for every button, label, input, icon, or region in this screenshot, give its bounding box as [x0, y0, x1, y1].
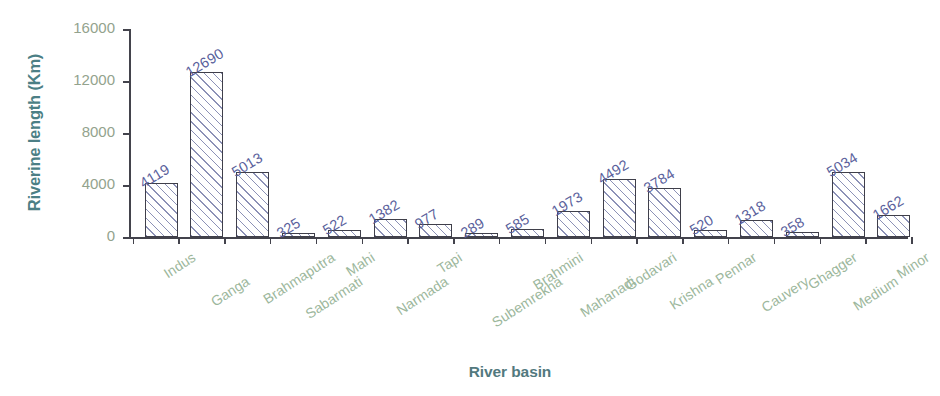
x-axis-category-label: Cauvery	[759, 273, 812, 315]
y-axis-tick-label: 16000	[73, 19, 115, 36]
y-axis-tick: 16000	[123, 29, 130, 31]
y-axis-tick: 8000	[123, 133, 130, 135]
x-axis-tick	[453, 237, 455, 244]
x-axis-tick	[636, 237, 638, 244]
x-axis-category-label: Ghagger	[805, 249, 860, 292]
x-axis-category-label: Sabarmati	[303, 273, 366, 322]
x-axis-tick	[682, 237, 684, 244]
x-axis-category-label: Godavari	[622, 249, 679, 294]
x-axis-category-label: Krishna	[667, 273, 716, 313]
bar	[603, 179, 636, 237]
x-axis-tick	[591, 237, 593, 244]
y-axis-tick-label: 8000	[82, 123, 115, 140]
y-axis-tick: 0	[123, 237, 130, 239]
x-axis-tick	[774, 237, 776, 244]
y-axis-title: Riverine length (Km)	[25, 13, 44, 253]
x-axis-category-label: Mahi	[343, 249, 378, 279]
y-axis-tick-label: 4000	[82, 175, 115, 192]
bar	[145, 183, 178, 237]
x-axis-category-label: Indus	[161, 249, 199, 281]
x-axis-title: River basin	[0, 363, 940, 381]
x-axis-tick	[224, 237, 226, 244]
x-axis-tick	[316, 237, 318, 244]
bar	[832, 172, 865, 237]
x-axis-category-label: Ganga	[208, 273, 252, 310]
x-axis-category-label: Tapi	[434, 249, 465, 277]
x-axis-line	[129, 237, 908, 239]
x-axis-category-label: Pennar	[712, 249, 759, 287]
x-axis-tick	[178, 237, 180, 244]
y-axis-tick-label: 12000	[73, 71, 115, 88]
bar	[648, 188, 681, 237]
x-axis-tick	[728, 237, 730, 244]
x-axis-tick	[362, 237, 364, 244]
x-axis-category-label: Narmada	[393, 273, 451, 318]
x-axis-tick	[270, 237, 272, 244]
plot-area: 0400080001200016000 41191269050133255221…	[129, 29, 908, 237]
x-axis-tick	[865, 237, 867, 244]
y-axis-tick: 4000	[123, 185, 130, 187]
x-axis-tick	[545, 237, 547, 244]
x-axis-category-label: Medium	[850, 273, 901, 314]
y-axis-tick-label: 0	[107, 227, 115, 244]
bar	[190, 72, 223, 237]
y-axis-tick: 12000	[123, 81, 130, 83]
x-axis-tick	[407, 237, 409, 244]
bar	[236, 172, 269, 237]
x-axis-tick	[911, 237, 913, 244]
x-axis-tick	[499, 237, 501, 244]
bar-chart: Riverine length (Km) 0400080001200016000…	[0, 0, 940, 396]
x-axis-tick	[820, 237, 822, 244]
x-axis-tick	[133, 237, 135, 244]
x-axis-category-label: Minor	[894, 249, 933, 282]
